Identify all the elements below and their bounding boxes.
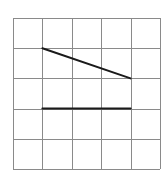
- grid-lines: [13, 18, 161, 170]
- grid-diagram: [0, 0, 166, 176]
- diagonal-segment: [42, 48, 130, 78]
